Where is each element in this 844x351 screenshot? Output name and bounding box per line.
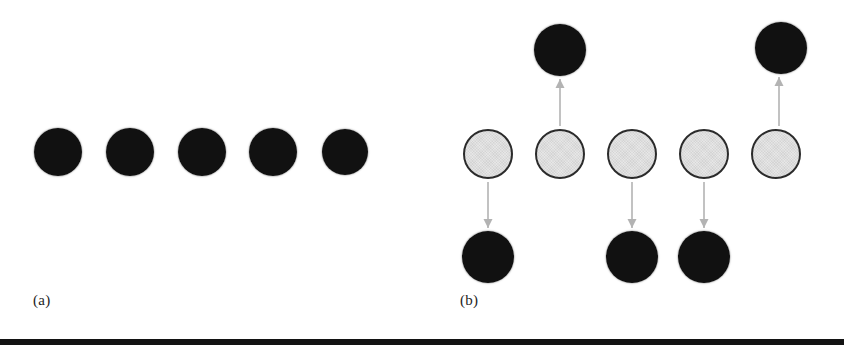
node-b-open-4 (679, 129, 729, 179)
figure-root: (a) (b) (0, 0, 844, 351)
arrow-up-col-2 (549, 73, 571, 132)
node-a-4 (249, 128, 297, 176)
panel-b: (b) (422, 0, 844, 330)
node-a-1 (34, 128, 82, 176)
panel-b-label: (b) (460, 292, 478, 309)
node-b-open-1 (463, 129, 513, 179)
node-b-up-5 (755, 22, 807, 74)
node-b-open-5 (751, 129, 801, 179)
node-a-2 (106, 128, 154, 176)
arrow-down-col-4 (693, 176, 715, 234)
node-b-down-4 (678, 231, 730, 283)
arrow-down-col-3 (621, 176, 643, 234)
node-a-5 (322, 129, 368, 175)
node-a-3 (178, 128, 226, 176)
node-b-up-2 (534, 24, 586, 76)
bottom-divider-rule (0, 339, 844, 345)
arrow-up-col-5 (768, 71, 790, 132)
arrow-down-col-1 (477, 176, 499, 234)
node-b-down-1 (462, 231, 514, 283)
node-b-open-2 (535, 129, 585, 179)
panel-a: (a) (0, 0, 422, 330)
node-b-open-3 (607, 129, 657, 179)
panel-a-label: (a) (33, 292, 51, 309)
node-b-down-3 (606, 231, 658, 283)
